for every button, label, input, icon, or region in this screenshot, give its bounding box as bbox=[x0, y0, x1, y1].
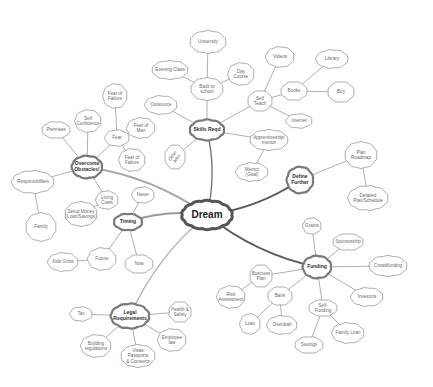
node-label: Back to school bbox=[199, 84, 214, 95]
node-label: University bbox=[198, 39, 218, 44]
node-family-loan: Family Loan bbox=[331, 322, 365, 344]
node-label: Overdraft bbox=[272, 322, 291, 327]
node-label: Fear of Failure bbox=[108, 91, 123, 102]
node-label: Self Teach bbox=[254, 96, 266, 107]
node-savings: Savings bbox=[294, 336, 324, 354]
node-label: Investors bbox=[358, 294, 377, 299]
node-self-teach: Self Teach bbox=[247, 90, 273, 112]
node-university: University bbox=[189, 30, 227, 54]
node-skills: Skills Reqd bbox=[189, 119, 225, 141]
node-health-safety: Health & Safety bbox=[168, 301, 192, 323]
mind-map-canvas: DreamSkills ReqdDefine FurtherFundingLeg… bbox=[0, 0, 433, 387]
node-label: Evening Class bbox=[155, 67, 184, 72]
node-label: Business Plan bbox=[252, 271, 271, 282]
node-now: Now bbox=[124, 254, 154, 274]
node-label: Fear bbox=[112, 135, 121, 140]
node-family: Family bbox=[25, 212, 57, 242]
node-mentor: Mentor (Goal) bbox=[235, 162, 269, 182]
node-label: Premises bbox=[46, 127, 65, 132]
node-buy: Buy bbox=[327, 81, 355, 103]
node-label: Risk Assessment bbox=[218, 292, 243, 303]
node-employee-law: Employee law bbox=[157, 328, 187, 352]
node-responsibilities: Responsibilities bbox=[11, 170, 55, 194]
node-label: Skills Reqd bbox=[194, 127, 221, 133]
node-label: Detailed Plan/Schedule bbox=[353, 193, 383, 204]
node-self-confidence: Self Confidence bbox=[74, 109, 102, 133]
node-label: Visas Passports & Consents bbox=[123, 348, 153, 364]
node-label: Fear of Failure bbox=[125, 155, 140, 166]
node-label: Family bbox=[34, 224, 48, 229]
node-label: Day Course bbox=[234, 69, 249, 80]
node-kids-grow: Kids Grow bbox=[47, 252, 79, 272]
node-dream: Dream bbox=[181, 200, 233, 230]
node-library: Library bbox=[315, 49, 349, 69]
node-legal: Legal Requirements bbox=[110, 303, 150, 329]
node-obstacles: Overcome Obstacles! bbox=[71, 155, 103, 179]
node-label: Responsibilities bbox=[17, 179, 49, 184]
node-label: Tax bbox=[77, 311, 84, 316]
node-label: Living Costs bbox=[101, 195, 113, 206]
node-evening: Evening Class bbox=[151, 60, 189, 80]
node-building-regs: Building regulations bbox=[80, 334, 112, 358]
node-label: Loan bbox=[245, 321, 255, 326]
node-label: Employee law bbox=[162, 335, 182, 346]
node-label: Outsource bbox=[150, 102, 171, 107]
node-timing: Timing bbox=[113, 213, 143, 231]
node-videos: Videos bbox=[265, 46, 295, 68]
node-loan: Loan bbox=[239, 313, 261, 335]
node-setup-money: Setup Money (Loan/Savings) bbox=[64, 201, 98, 227]
node-risk-assessment: Risk Assessment bbox=[216, 285, 246, 309]
node-label: Legal Requirements bbox=[113, 310, 146, 322]
node-label: Setup Money (Loan/Savings) bbox=[66, 209, 97, 220]
node-label: Family Loan bbox=[335, 330, 360, 335]
node-label: Now bbox=[134, 261, 143, 266]
node-label: Building regulations bbox=[85, 341, 107, 352]
node-outsource: Outsource bbox=[144, 95, 178, 115]
node-label: Future bbox=[95, 256, 108, 261]
node-books: Books bbox=[280, 81, 308, 101]
node-grants: Grants bbox=[302, 217, 322, 235]
node-label: Never bbox=[137, 192, 149, 197]
node-funding: Funding bbox=[302, 255, 332, 279]
node-internet: Internet bbox=[285, 113, 313, 129]
node-apprenticeship: Apprenticeship/ mentor bbox=[249, 129, 289, 151]
node-label: Savings bbox=[301, 342, 317, 347]
node-label: Overcome Obstacles! bbox=[74, 161, 100, 173]
node-tax: Tax bbox=[69, 306, 93, 322]
node-label: Library bbox=[325, 56, 339, 61]
node-label: Health & Safety bbox=[171, 307, 189, 318]
node-premises: Premises bbox=[41, 121, 71, 139]
node-label: Grants bbox=[305, 223, 319, 228]
node-label: Self Confidence bbox=[76, 116, 99, 127]
node-label: Videos bbox=[273, 54, 287, 59]
node-plan-roadmap: Plan Roadmap bbox=[344, 141, 378, 169]
node-label: Dream bbox=[191, 209, 222, 221]
node-investors: Investors bbox=[350, 287, 384, 307]
node-sponsorship: Sponsorship bbox=[332, 233, 364, 251]
node-label: Internet bbox=[291, 118, 307, 123]
node-label: Buy bbox=[337, 89, 345, 94]
node-label: Fear of Man bbox=[134, 123, 149, 134]
node-label: Define Further bbox=[291, 174, 309, 186]
node-label: Mentor (Goal) bbox=[238, 167, 266, 178]
node-label: Sponsorship bbox=[335, 239, 361, 244]
node-bank: Bank bbox=[267, 286, 293, 306]
node-never: Never bbox=[131, 186, 155, 204]
node-fear-failure: Fear of Failure bbox=[102, 83, 128, 109]
node-overdraft: Overdraft bbox=[266, 315, 298, 335]
node-label: Crowdfunding bbox=[374, 263, 402, 268]
node-living-costs: Living Costs bbox=[95, 190, 119, 210]
node-label: Plan Roadmap bbox=[351, 150, 371, 161]
node-back-school: Back to school bbox=[190, 77, 224, 101]
node-visas: Visas Passports & Consents bbox=[120, 344, 156, 368]
node-label: Bank bbox=[275, 293, 285, 298]
node-crowdfunding: Crowdfunding bbox=[368, 255, 408, 277]
node-label: Self-Funding bbox=[311, 303, 335, 314]
node-day-course: Day Course bbox=[227, 62, 255, 86]
node-fear-man: Fear of Man bbox=[126, 117, 156, 139]
node-fear-failure2: Fear of Failure bbox=[118, 148, 146, 172]
node-label: Books bbox=[288, 88, 301, 93]
node-detailed-plan: Detailed Plan/Schedule bbox=[347, 185, 389, 211]
node-label: Kids Grow bbox=[52, 259, 73, 264]
node-self-funding: Self-Funding bbox=[308, 299, 338, 317]
